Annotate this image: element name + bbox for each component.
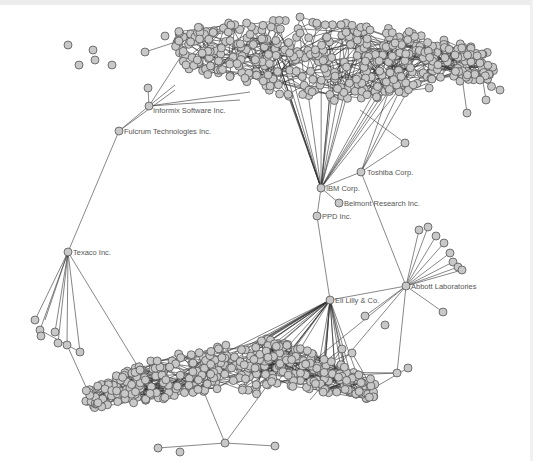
company-node[interactable] [484,61,492,69]
company-node[interactable] [405,28,413,36]
company-node[interactable] [233,60,241,68]
company-node[interactable] [31,316,39,324]
company-node[interactable] [51,328,59,336]
company-node[interactable] [271,442,279,450]
company-node[interactable] [409,81,417,89]
company-node[interactable] [319,57,327,65]
company-node[interactable] [307,67,315,75]
company-node[interactable] [317,76,325,84]
company-node[interactable] [289,382,297,390]
company-node[interactable] [114,398,122,406]
company-node[interactable] [207,370,215,378]
company-node[interactable] [341,385,349,393]
company-node[interactable] [251,364,259,372]
company-node[interactable] [196,35,204,43]
company-node[interactable] [246,30,254,38]
company-node[interactable] [463,71,471,79]
company-node[interactable] [236,40,244,48]
company-node[interactable] [176,371,184,379]
company-node[interactable] [205,35,213,43]
company-node[interactable] [82,387,90,395]
company-node[interactable] [228,364,236,372]
node-ibm[interactable] [317,184,325,192]
company-node[interactable] [355,387,363,395]
company-node[interactable] [441,54,449,62]
company-node[interactable] [382,78,390,86]
company-node[interactable] [194,23,202,31]
company-node[interactable] [253,71,261,79]
company-node[interactable] [458,44,466,52]
company-node[interactable] [130,399,138,407]
company-node[interactable] [258,35,266,43]
company-node[interactable] [323,33,331,41]
company-node[interactable] [496,86,504,94]
company-node[interactable] [305,34,313,42]
company-node[interactable] [207,347,215,355]
company-node[interactable] [37,332,45,340]
company-node[interactable] [238,346,246,354]
company-node[interactable] [338,345,346,353]
company-node[interactable] [213,385,221,393]
company-node[interactable] [288,356,296,364]
company-node[interactable] [141,48,149,56]
company-node[interactable] [333,388,341,396]
company-node[interactable] [189,359,197,367]
company-node[interactable] [195,349,203,357]
company-node[interactable] [187,38,195,46]
company-node[interactable] [451,51,459,59]
company-node[interactable] [361,312,369,320]
company-node[interactable] [136,366,144,374]
company-node[interactable] [206,62,214,70]
company-node[interactable] [425,84,433,92]
company-node[interactable] [334,373,342,381]
company-node[interactable] [434,61,442,69]
company-node[interactable] [404,36,412,44]
company-node[interactable] [275,16,283,24]
company-node[interactable] [286,49,294,57]
node-ppd[interactable] [313,212,321,220]
company-node[interactable] [424,39,432,47]
company-node[interactable] [251,56,259,64]
company-node[interactable] [54,339,62,347]
company-node[interactable] [214,345,222,353]
company-node[interactable] [487,82,495,90]
company-node[interactable] [241,74,249,82]
company-node[interactable] [334,85,342,93]
company-node[interactable] [240,361,248,369]
company-node[interactable] [264,353,272,361]
company-node[interactable] [321,21,329,29]
company-node[interactable] [337,21,345,29]
company-node[interactable] [128,381,136,389]
company-node[interactable] [463,109,471,117]
company-node[interactable] [361,57,369,65]
company-node[interactable] [217,44,225,52]
company-node[interactable] [353,52,361,60]
company-node[interactable] [153,357,161,365]
company-node[interactable] [162,376,170,384]
company-node[interactable] [207,360,215,368]
company-node[interactable] [272,37,280,45]
company-node[interactable] [303,347,311,355]
company-node[interactable] [76,348,84,356]
company-node[interactable] [320,64,328,72]
company-node[interactable] [180,389,188,397]
company-node[interactable] [276,90,284,98]
company-node[interactable] [320,368,328,376]
company-node[interactable] [320,355,328,363]
company-node[interactable] [292,67,300,75]
abbott-spoke-node[interactable] [440,239,448,247]
company-node[interactable] [283,341,291,349]
company-node[interactable] [426,53,434,61]
node-informix[interactable] [145,102,153,110]
company-node[interactable] [119,373,127,381]
company-node[interactable] [131,388,139,396]
company-node[interactable] [284,371,292,379]
company-node[interactable] [272,51,280,59]
company-node[interactable] [482,96,490,104]
company-node[interactable] [402,50,410,58]
company-node[interactable] [94,382,102,390]
company-node[interactable] [161,393,169,401]
company-node[interactable] [357,379,365,387]
company-node[interactable] [348,21,356,29]
company-node[interactable] [343,376,351,384]
